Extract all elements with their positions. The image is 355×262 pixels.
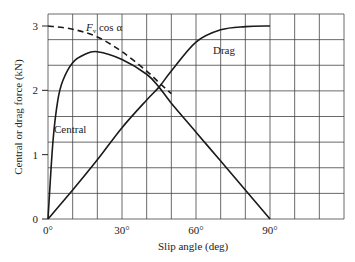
- x-tick-label: 90°: [262, 224, 277, 236]
- x-tick-label: 0°: [43, 224, 53, 236]
- grid: [48, 14, 344, 219]
- y-tick-label: 2: [33, 84, 39, 96]
- central-label: Central: [54, 123, 86, 135]
- x-axis-label: Slip angle (deg): [158, 240, 229, 253]
- y-tick-label: 1: [33, 149, 39, 161]
- x-tick-label: 60°: [188, 224, 203, 236]
- curve-central: [48, 51, 270, 219]
- curve-f-v-cos-: [48, 26, 171, 94]
- y-tick-label: 0: [33, 213, 39, 225]
- slip-angle-force-chart: 01230°30°60°90° Central Drag Fv cos α Sl…: [0, 0, 355, 262]
- y-tick-label: 3: [33, 20, 39, 32]
- y-axis-label: Central or drag force (kN): [12, 59, 25, 175]
- x-tick-label: 30°: [114, 224, 129, 236]
- drag-label: Drag: [213, 44, 235, 56]
- fv-cos-alpha-label: Fv cos α: [85, 21, 122, 35]
